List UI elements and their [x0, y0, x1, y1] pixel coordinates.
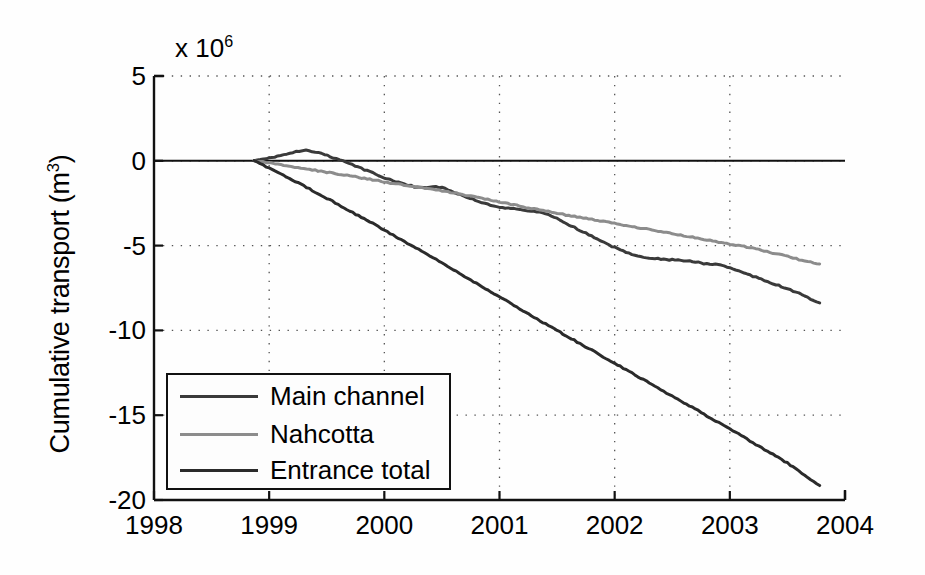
x-tick-label: 2000 — [324, 512, 444, 538]
legend-swatch-entrance-total — [180, 469, 258, 472]
chart-figure: Cumulative transport (m3) x 106 50-5-10-… — [0, 0, 925, 575]
x-tick-label: 2002 — [555, 512, 675, 538]
legend-label-entrance-total: Entrance total — [270, 457, 430, 483]
x-tick-label: 2001 — [440, 512, 560, 538]
legend-swatch-nahcotta — [180, 433, 258, 436]
x-tick-label: 2003 — [670, 512, 790, 538]
legend-label-nahcotta: Nahcotta — [270, 421, 374, 447]
legend-entry-nahcotta: Nahcotta — [168, 415, 449, 453]
y-tick-label: 5 — [86, 63, 146, 89]
y-tick-label: -5 — [86, 233, 146, 259]
x-tick-label: 2004 — [785, 512, 905, 538]
legend-entry-main-channel: Main channel — [168, 377, 449, 415]
y-tick-label: 0 — [86, 148, 146, 174]
y-tick-label: -15 — [86, 402, 146, 428]
legend-swatch-main-channel — [180, 395, 258, 398]
x-tick-label: 1998 — [94, 512, 214, 538]
chart-legend: Main channel Nahcotta Entrance total — [166, 373, 451, 490]
legend-label-main-channel: Main channel — [270, 383, 425, 409]
y-tick-label: -10 — [86, 317, 146, 343]
legend-entry-entrance-total: Entrance total — [168, 451, 449, 489]
x-tick-label: 1999 — [209, 512, 329, 538]
